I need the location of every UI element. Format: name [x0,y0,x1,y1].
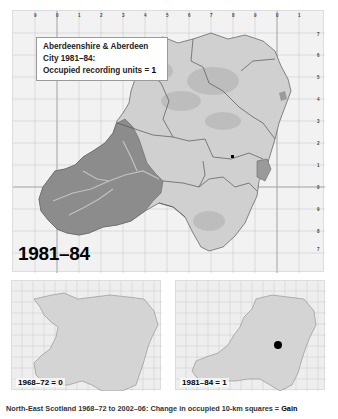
legend-line-2: City 1981–84: [43,53,161,65]
tick-top: 5 [166,13,169,18]
tick-right: 1 [317,163,320,168]
tick-top: 9 [254,13,257,18]
tick-right: 8 [317,229,320,234]
tick-top: 4 [144,13,147,18]
tick-top: 9 [34,13,37,18]
record-dot [231,155,234,158]
tick-top: 3 [122,13,125,18]
legend-count-value: 1 [152,66,157,75]
tick-top: 1 [78,13,81,18]
tick-right: 0 [317,185,320,190]
main-distribution-map: Aberdeenshire & Aberdeen City 1981–84: O… [12,10,324,272]
tick-top: 0 [56,13,59,18]
tick-top: 0 [276,13,279,18]
legend-count-label: Occupied recording units = [43,66,152,75]
tick-right: 7 [317,247,320,252]
mini-map-label: 1981–84 = 1 [180,378,229,387]
tick-right: 2 [317,141,320,146]
caption-text: North-East Scotland 1968–72 to 2002–06: … [6,404,281,413]
mini-map-graphic [12,281,162,391]
tick-top: 1 [298,13,301,18]
mini-map-1981-84: 1981–84 = 1 [175,280,325,390]
tick-right: 6 [317,53,320,58]
tick-top: 6 [188,13,191,18]
period-label: 1981–84 [18,243,90,265]
mini-map-graphic [176,281,326,391]
tick-right: 4 [317,97,320,102]
tick-right: 7 [317,32,320,37]
tick-top: 2 [100,13,103,18]
tick-right: 3 [317,119,320,124]
map-legend: Aberdeenshire & Aberdeen City 1981–84: O… [36,37,168,81]
tick-top: 7 [210,13,213,18]
region-outline [192,295,316,391]
mini-map-1968-72: 1968–72 = 0 [11,280,161,390]
legend-line-1: Aberdeenshire & Aberdeen [43,41,161,53]
tick-top: 8 [232,13,235,18]
figure-caption: North-East Scotland 1968–72 to 2002–06: … [6,404,338,413]
tick-right: 9 [317,207,320,212]
region-outline [34,293,158,391]
tick-right: 5 [317,75,320,80]
mini-map-label: 1968–72 = 0 [16,378,65,387]
aberdeen-city [257,159,271,181]
caption-result: Gain [281,404,297,413]
record-dot [274,341,282,349]
legend-line-3: Occupied recording units = 1 [43,65,161,77]
